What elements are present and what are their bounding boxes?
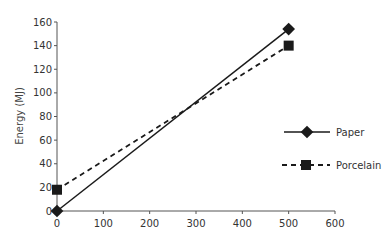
diamond-marker-icon bbox=[282, 23, 295, 36]
line-chart: 020406080100120140160 010020030040050060… bbox=[0, 0, 389, 244]
legend-porcelain-label: Porcelain bbox=[336, 160, 381, 171]
x-tick-label: 600 bbox=[325, 218, 344, 229]
x-tick-label: 200 bbox=[140, 218, 159, 229]
legend-paper-diamond-icon bbox=[301, 126, 314, 139]
series-lines bbox=[51, 23, 295, 218]
x-tick-label: 300 bbox=[186, 218, 205, 229]
legend-paper-label: Paper bbox=[336, 127, 365, 138]
y-tick-label: 100 bbox=[33, 87, 52, 98]
y-tick-label: 60 bbox=[39, 135, 52, 146]
square-marker-icon bbox=[52, 185, 62, 195]
square-marker-icon bbox=[284, 41, 294, 51]
y-tick-label: 20 bbox=[39, 182, 52, 193]
x-tick-label: 0 bbox=[54, 218, 60, 229]
y-tick-label: 140 bbox=[33, 40, 52, 51]
x-tick-label: 400 bbox=[233, 218, 252, 229]
x-tick-label: 100 bbox=[94, 218, 113, 229]
x-axis-ticks: 0100200300400500600 bbox=[54, 211, 345, 229]
series-line-paper bbox=[57, 29, 289, 211]
x-tick-label: 500 bbox=[279, 218, 298, 229]
y-tick-label: 80 bbox=[39, 111, 52, 122]
series-line-porcelain bbox=[57, 46, 289, 190]
y-tick-label: 40 bbox=[39, 158, 52, 169]
y-tick-label: 160 bbox=[33, 17, 52, 28]
y-tick-label: 120 bbox=[33, 64, 52, 75]
diamond-marker-icon bbox=[51, 205, 64, 218]
legend-porcelain-square-icon bbox=[301, 160, 311, 170]
y-axis-title: Energy (MJ) bbox=[14, 87, 25, 145]
legend: Paper Porcelain bbox=[282, 126, 381, 171]
